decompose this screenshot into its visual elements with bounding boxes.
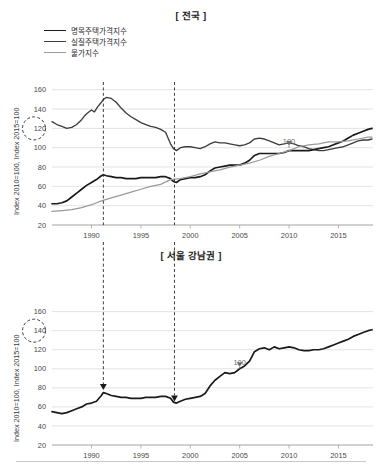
series-line-2 bbox=[52, 128, 372, 203]
y-tick-label-100: 100 bbox=[34, 364, 46, 373]
y-tick-label-140: 140 bbox=[34, 105, 46, 114]
y-tick-label-80: 80 bbox=[38, 163, 46, 172]
x-tick-label-1990: 1990 bbox=[83, 451, 99, 460]
x-tick-label-2000: 2000 bbox=[182, 231, 198, 240]
y-tick-label-120: 120 bbox=[34, 345, 46, 354]
annotation-label-100: 100 bbox=[283, 137, 295, 146]
annotation-label-100: 100 bbox=[233, 358, 245, 367]
chart-panel-national: [ 전국 ] 명목주택가격지수 실질주택가격지수 물가지수 Index 2010… bbox=[0, 0, 382, 248]
x-tick-label-2005: 2005 bbox=[231, 231, 247, 240]
y-tick-label-40: 40 bbox=[38, 201, 46, 210]
x-tick-label-2015: 2015 bbox=[330, 451, 346, 460]
chart-panel-gangnam: [ 서울 강남권 ] Index 2010=100, Index 2015=10… bbox=[0, 242, 382, 465]
series-line-1 bbox=[52, 330, 372, 414]
y-tick-label-140: 140 bbox=[34, 326, 46, 335]
x-tick-label-2010: 2010 bbox=[281, 231, 297, 240]
dashed-marker-arrowhead-3 bbox=[100, 384, 107, 390]
chart-canvas-national: 2040608010012014016019901995200020052010… bbox=[0, 0, 382, 248]
chart-canvas-gangnam: 2040608010012014016019901995200020052010… bbox=[0, 242, 382, 465]
y-tick-label-20: 20 bbox=[38, 441, 46, 450]
x-tick-label-2015: 2015 bbox=[330, 231, 346, 240]
y-tick-label-60: 60 bbox=[38, 402, 46, 411]
y-tick-label-80: 80 bbox=[38, 383, 46, 392]
y-tick-label-20: 20 bbox=[38, 221, 46, 230]
x-tick-label-1990: 1990 bbox=[83, 231, 99, 240]
x-tick-label-2000: 2000 bbox=[182, 451, 198, 460]
footer-divider bbox=[16, 461, 366, 462]
y-tick-label-120: 120 bbox=[34, 124, 46, 133]
x-tick-label-1995: 1995 bbox=[133, 231, 149, 240]
x-tick-label-2005: 2005 bbox=[231, 451, 247, 460]
y-tick-label-160: 160 bbox=[34, 307, 46, 316]
x-tick-label-1995: 1995 bbox=[133, 451, 149, 460]
y-tick-label-40: 40 bbox=[38, 422, 46, 431]
x-tick-label-2010: 2010 bbox=[281, 451, 297, 460]
y-tick-label-60: 60 bbox=[38, 182, 46, 191]
y-tick-label-100: 100 bbox=[34, 143, 46, 152]
y-tick-label-160: 160 bbox=[34, 85, 46, 94]
